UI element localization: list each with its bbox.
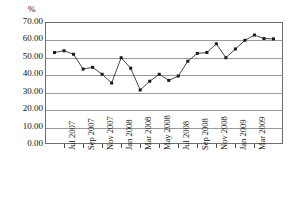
data-point <box>262 37 265 40</box>
y-tick-label: 10.00 <box>23 122 43 131</box>
data-point <box>120 56 123 59</box>
x-tick <box>121 144 122 148</box>
y-tick-label: 50.00 <box>23 52 43 61</box>
data-point <box>167 79 170 82</box>
data-point <box>63 49 66 52</box>
x-tick-label: Sep 2008 <box>201 118 210 150</box>
data-point <box>224 56 227 59</box>
data-point <box>243 39 246 42</box>
x-tick-label: Jan 2008 <box>125 120 134 150</box>
data-point <box>82 68 85 71</box>
x-tick <box>197 144 198 148</box>
x-tick-label: Jan 2009 <box>239 120 248 150</box>
data-point <box>91 66 94 69</box>
x-tick <box>216 144 217 148</box>
x-tick-label: Nov 2007 <box>106 116 115 150</box>
x-tick-label: Sep 2007 <box>87 118 96 150</box>
data-point <box>215 42 218 45</box>
series-markers <box>53 34 275 92</box>
data-point <box>272 37 275 40</box>
data-point <box>158 73 161 76</box>
y-tick-label: 70.00 <box>23 17 43 26</box>
data-point <box>186 60 189 63</box>
x-tick <box>140 144 141 148</box>
x-tick-label: Jul 2007 <box>68 121 77 150</box>
x-tick-label: Mar 2008 <box>144 117 153 150</box>
data-point <box>196 52 199 55</box>
data-point <box>139 88 142 91</box>
y-tick-label: 0.00 <box>27 139 43 148</box>
x-tick-label: May 2008 <box>163 115 172 150</box>
x-tick <box>64 144 65 148</box>
x-tick <box>178 144 179 148</box>
data-point <box>253 34 256 37</box>
x-tick <box>83 144 84 148</box>
y-tick-label: 20.00 <box>23 104 43 113</box>
data-point <box>148 80 151 83</box>
x-tick <box>235 144 236 148</box>
y-tick-label: 30.00 <box>23 87 43 96</box>
line-chart: % 70.0060.0050.0040.0030.0020.0010.000.0… <box>0 0 291 204</box>
y-axis-tick-labels: 70.0060.0050.0040.0030.0020.0010.000.00 <box>0 0 43 204</box>
data-point <box>110 82 113 85</box>
x-tick <box>159 144 160 148</box>
data-point <box>129 67 132 70</box>
data-point <box>101 73 104 76</box>
data-point <box>53 51 56 54</box>
x-tick-label: Nov 2008 <box>220 116 229 150</box>
y-tick-label: 60.00 <box>23 34 43 43</box>
x-tick <box>102 144 103 148</box>
x-tick-label: Jul 2008 <box>182 121 191 150</box>
data-point <box>234 48 237 51</box>
data-point <box>177 75 180 78</box>
y-tick-label: 40.00 <box>23 69 43 78</box>
x-tick <box>254 144 255 148</box>
series-polyline <box>55 35 274 90</box>
x-tick-label: Mar 2009 <box>258 117 267 150</box>
data-point <box>205 51 208 54</box>
data-point <box>72 53 75 56</box>
